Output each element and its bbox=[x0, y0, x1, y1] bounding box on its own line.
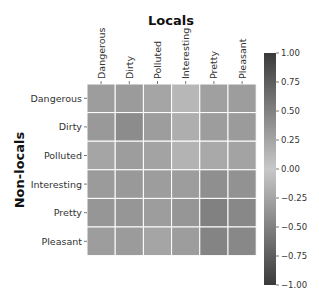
heatmap-cell-pleasant-pleasant bbox=[228, 227, 256, 256]
heatmap-cell-polluted-dangerous bbox=[87, 141, 115, 170]
heatmap-cell-interesting-polluted bbox=[143, 170, 171, 199]
heatmap-cell-dangerous-pleasant bbox=[228, 84, 256, 113]
colorbar-tick-label: −0.75 bbox=[281, 251, 307, 261]
colorbar-tick-label: 0.00 bbox=[281, 164, 300, 174]
heatmap-cell-polluted-polluted bbox=[143, 141, 171, 170]
y-axis-label: Non-locals bbox=[12, 131, 27, 208]
colorbar-tick-label: 1.00 bbox=[281, 48, 300, 58]
y-tick-label: Interesting bbox=[31, 179, 82, 190]
heatmap-cell-interesting-pleasant bbox=[228, 170, 256, 199]
heatmap-cell-pretty-interesting bbox=[172, 198, 200, 227]
colorbar-tick-label: 0.75 bbox=[281, 77, 300, 87]
heatmap-cell-interesting-dangerous bbox=[87, 170, 115, 199]
heatmap-cell-polluted-dirty bbox=[115, 141, 143, 170]
heatmap-cell-pleasant-dangerous bbox=[87, 227, 115, 256]
heatmap-cells bbox=[87, 84, 256, 256]
heatmap-cell-pretty-pleasant bbox=[228, 198, 256, 227]
y-tick-labels: DangerousDirtyPollutedInterestingPrettyP… bbox=[30, 93, 87, 247]
heatmap-cell-pleasant-interesting bbox=[172, 227, 200, 256]
x-tick-label: Pleasant bbox=[237, 38, 248, 79]
heatmap-cell-dangerous-interesting bbox=[172, 84, 200, 113]
heatmap-cell-polluted-interesting bbox=[172, 141, 200, 170]
y-tick-label: Pleasant bbox=[41, 236, 82, 247]
colorbar-tick-label: 0.25 bbox=[281, 135, 300, 145]
heatmap-cell-pretty-polluted bbox=[143, 198, 171, 227]
heatmap-cell-dirty-dangerous bbox=[87, 113, 115, 142]
x-tick-label: Polluted bbox=[152, 41, 163, 79]
heatmap-cell-pretty-dirty bbox=[115, 198, 143, 227]
heatmap-cell-dangerous-dirty bbox=[115, 84, 143, 113]
heatmap-cell-dirty-interesting bbox=[172, 113, 200, 142]
heatmap-cell-polluted-pretty bbox=[200, 141, 228, 170]
colorbar-tick-label: −0.25 bbox=[281, 193, 307, 203]
heatmap-cell-dangerous-pretty bbox=[200, 84, 228, 113]
colorbar bbox=[264, 53, 276, 285]
x-tick-label: Interesting bbox=[180, 28, 191, 79]
heatmap-cell-pretty-pretty bbox=[200, 198, 228, 227]
heatmap-cell-polluted-pleasant bbox=[228, 141, 256, 170]
x-tick-labels: DangerousDirtyPollutedInterestingPrettyP… bbox=[96, 27, 248, 84]
heatmap-chart: Locals Non-locals DangerousDirtyPolluted… bbox=[0, 0, 319, 304]
heatmap-cell-interesting-dirty bbox=[115, 170, 143, 199]
heatmap-cell-dirty-dirty bbox=[115, 113, 143, 142]
y-tick-label: Pretty bbox=[54, 207, 83, 218]
y-tick-label: Dangerous bbox=[30, 93, 82, 104]
heatmap-cell-dangerous-polluted bbox=[143, 84, 171, 113]
x-tick-label: Pretty bbox=[208, 50, 219, 79]
chart-title: Locals bbox=[148, 13, 194, 28]
y-tick-label: Dirty bbox=[59, 121, 83, 132]
heatmap-cell-dirty-polluted bbox=[143, 113, 171, 142]
heatmap-cell-dirty-pleasant bbox=[228, 113, 256, 142]
heatmap-cell-interesting-pretty bbox=[200, 170, 228, 199]
x-tick-label: Dangerous bbox=[96, 27, 107, 79]
x-tick-label: Dirty bbox=[124, 55, 135, 79]
heatmap-cell-pleasant-polluted bbox=[143, 227, 171, 256]
heatmap-cell-pleasant-pretty bbox=[200, 227, 228, 256]
heatmap-cell-dangerous-dangerous bbox=[87, 84, 115, 113]
colorbar-tick-label: −0.50 bbox=[281, 222, 307, 232]
heatmap-cell-pleasant-dirty bbox=[115, 227, 143, 256]
heatmap-cell-dirty-pretty bbox=[200, 113, 228, 142]
colorbar-tick-label: 0.50 bbox=[281, 106, 300, 116]
heatmap-cell-pretty-dangerous bbox=[87, 198, 115, 227]
colorbar-ticks: 1.000.750.500.250.00−0.25−0.50−0.75−1.00 bbox=[276, 48, 307, 290]
heatmap-cell-interesting-interesting bbox=[172, 170, 200, 199]
colorbar-tick-label: −1.00 bbox=[281, 280, 307, 290]
y-tick-label: Polluted bbox=[44, 150, 82, 161]
